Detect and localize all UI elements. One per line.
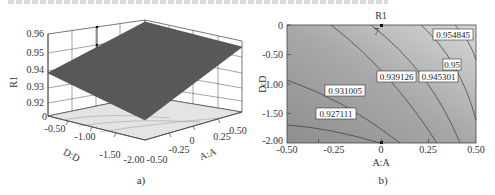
svg-text:-0.25: -0.25	[324, 144, 345, 155]
design-point-marker-2	[96, 44, 98, 46]
svg-text:0.93: 0.93	[27, 81, 45, 92]
svg-text:0: 0	[379, 144, 384, 155]
svg-text:-0.25: -0.25	[169, 144, 190, 155]
figure: 0.96 0.95 0.94 0.93 0.92 0 R1 -0.50 -1.0…	[0, 0, 495, 195]
surface-plot-3d: 0.96 0.95 0.94 0.93 0.92 0 R1 -0.50 -1.0…	[8, 20, 247, 187]
svg-text:-0.50: -0.50	[262, 49, 283, 60]
caption-b: b)	[378, 174, 388, 187]
y-axis-label: D:D	[257, 75, 268, 92]
x-axis-label: A:A	[372, 157, 390, 168]
design-point-marker	[96, 26, 99, 29]
svg-text:0.94: 0.94	[27, 64, 45, 75]
svg-text:-0.50: -0.50	[277, 144, 298, 155]
svg-text:0.50: 0.50	[467, 144, 485, 155]
a-axis-label: A:A	[198, 145, 219, 162]
svg-text:0: 0	[190, 135, 195, 146]
svg-text:0.25: 0.25	[213, 131, 231, 142]
contour-label-0931005: 0.931005	[328, 86, 362, 96]
svg-text:-1.50: -1.50	[100, 149, 121, 160]
svg-text:0: 0	[42, 111, 47, 122]
svg-text:-1.50: -1.50	[262, 108, 283, 119]
contour-label-0945301: 0.945301	[422, 72, 456, 82]
svg-text:0.96: 0.96	[27, 28, 45, 39]
contour-area	[287, 25, 476, 143]
z-axis-label: R1	[8, 76, 19, 88]
design-point-count: 7	[374, 26, 379, 37]
contour-label-0939126: 0.939126	[380, 72, 414, 82]
d-axis-label: D:D	[61, 146, 81, 164]
x-tick-labels: -0.50 -0.25 0 0.25 0.50	[277, 144, 485, 155]
contour-label-095: 0.95	[444, 60, 460, 70]
contour-plot: R1 7 0.954845 0.95 0.939126 0.945301 0.9…	[257, 10, 485, 187]
svg-text:0.50: 0.50	[229, 125, 247, 136]
svg-text:0.25: 0.25	[419, 144, 437, 155]
z-tick-labels: 0.96 0.95 0.94 0.93 0.92 0	[27, 28, 48, 122]
caption-a: a)	[137, 174, 146, 187]
svg-text:0.92: 0.92	[27, 97, 45, 108]
svg-text:0.95: 0.95	[27, 47, 45, 58]
svg-text:-1.00: -1.00	[75, 131, 96, 142]
svg-text:-0.50: -0.50	[45, 123, 66, 134]
svg-text:-0.50: -0.50	[147, 154, 168, 165]
svg-text:-2.00: -2.00	[124, 154, 145, 165]
svg-text:0: 0	[278, 20, 283, 31]
contour-label-0927111: 0.927111	[319, 109, 352, 119]
contour-label-0954845: 0.954845	[436, 30, 470, 40]
design-point-marker	[380, 24, 383, 27]
contour-title: R1	[375, 10, 387, 21]
